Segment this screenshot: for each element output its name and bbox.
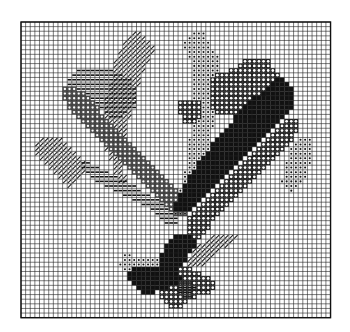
solid-stitch: [252, 105, 257, 110]
cross-stitch: [123, 156, 128, 161]
ring-stitch: [210, 211, 215, 216]
solid-stitch: [127, 271, 132, 276]
ring-stitch: [192, 211, 197, 216]
solid-stitch: [178, 262, 183, 267]
dot-stitch: [309, 139, 311, 141]
solid-stitch: [206, 174, 211, 179]
solid-stitch: [150, 285, 155, 290]
solid-stitch: [280, 114, 285, 119]
solid-stitch: [164, 248, 169, 253]
ring-stitch: [280, 142, 285, 147]
ring-stitch: [192, 101, 197, 106]
dot-stitch: [198, 65, 200, 67]
dot-stitch: [299, 157, 301, 159]
ring-stitch: [234, 174, 239, 179]
ring-stitch: [201, 202, 206, 207]
dot-stitch: [212, 120, 214, 122]
solid-stitch: [266, 87, 271, 92]
slash-stitch: [128, 36, 132, 40]
solid-stitch: [178, 207, 183, 212]
dot-stitch: [207, 125, 209, 127]
solid-stitch: [252, 124, 257, 129]
ring-stitch: [261, 68, 266, 73]
solid-stitch: [238, 119, 243, 124]
dot-stitch: [202, 111, 204, 113]
dot-stitch: [304, 176, 306, 178]
slash-stitch: [197, 254, 201, 258]
slash-stitch: [114, 166, 118, 170]
dot-stitch: [212, 116, 214, 118]
solid-stitch: [247, 142, 252, 147]
ring-stitch: [275, 138, 280, 143]
solid-stitch: [192, 170, 197, 175]
slash-stitch: [225, 240, 229, 244]
cross-stitch: [155, 184, 160, 189]
cross-stitch: [127, 151, 132, 156]
solid-stitch: [137, 281, 142, 286]
dot-stitch: [295, 162, 297, 164]
solid-stitch: [132, 267, 137, 272]
slash-stitch: [35, 152, 39, 156]
slash-stitch: [49, 147, 53, 151]
slash-stitch: [197, 258, 201, 262]
solid-stitch: [141, 290, 146, 295]
solid-stitch: [173, 262, 178, 267]
solid-stitch: [169, 276, 174, 281]
slash-stitch: [40, 143, 44, 147]
solid-stitch: [238, 114, 243, 119]
solid-stitch: [210, 147, 215, 152]
ring-stitch: [220, 110, 225, 115]
slash-stitch: [109, 120, 113, 124]
solid-stitch: [210, 156, 215, 161]
solid-stitch: [146, 290, 151, 295]
ring-stitch: [280, 147, 285, 152]
solid-stitch: [252, 133, 257, 138]
ring-stitch: [247, 96, 252, 101]
solid-stitch: [164, 258, 169, 263]
slash-stitch: [49, 156, 53, 160]
ring-stitch: [275, 142, 280, 147]
solid-stitch: [243, 133, 248, 138]
dot-stitch: [286, 185, 288, 187]
slash-stitch: [192, 258, 196, 262]
dot-stitch: [286, 171, 288, 173]
ring-stitch: [261, 165, 266, 170]
solid-stitch: [234, 133, 239, 138]
ring-stitch: [266, 64, 271, 69]
slash-stitch: [123, 120, 127, 124]
dot-stitch: [212, 125, 214, 127]
ring-stitch: [270, 73, 275, 78]
slash-stitch: [137, 64, 141, 68]
ring-stitch: [243, 82, 248, 87]
ring-stitch: [210, 198, 215, 203]
ring-stitch: [257, 151, 262, 156]
ring-stitch: [197, 216, 202, 221]
solid-stitch: [183, 235, 188, 240]
ring-stitch: [215, 207, 220, 212]
ring-stitch: [197, 281, 202, 286]
ring-stitch: [229, 193, 234, 198]
slash-stitch: [192, 254, 196, 258]
solid-stitch: [141, 271, 146, 276]
slash-stitch: [128, 73, 132, 77]
slash-stitch: [68, 170, 72, 174]
ring-stitch: [234, 184, 239, 189]
dot-stitch: [216, 65, 218, 67]
dot-stitch: [189, 37, 191, 39]
ring-stitch: [210, 105, 215, 110]
solid-stitch: [183, 184, 188, 189]
slash-stitch: [119, 64, 123, 68]
cross-stitch: [160, 184, 165, 189]
solid-stitch: [280, 110, 285, 115]
ring-stitch: [261, 82, 266, 87]
ring-stitch: [197, 290, 202, 295]
cross-stitch: [132, 151, 137, 156]
dot-stitch: [193, 148, 195, 150]
dot-stitch: [202, 120, 204, 122]
ring-stitch: [210, 207, 215, 212]
dot-stitch: [212, 56, 214, 58]
ring-stitch: [280, 128, 285, 133]
ring-stitch: [266, 68, 271, 73]
slash-stitch: [119, 120, 123, 124]
slash-stitch: [128, 59, 132, 63]
